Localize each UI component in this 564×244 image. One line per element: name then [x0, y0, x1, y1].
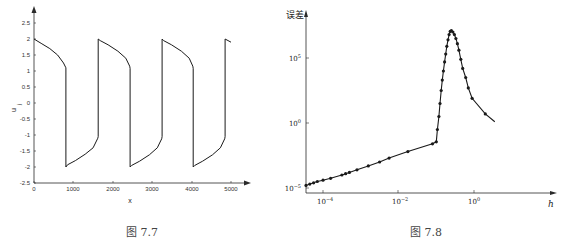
y-tick-label: 2.5 — [22, 20, 31, 26]
error-curve-markers — [304, 29, 487, 187]
x-axis-label: x — [128, 197, 132, 204]
y-axis-arrow-icon — [304, 10, 308, 17]
data-point-marker — [457, 49, 460, 52]
y-tick-label: 105 — [289, 53, 301, 63]
data-point-marker — [449, 30, 452, 33]
data-point-marker — [453, 33, 456, 36]
x-tick-label: 3000 — [145, 186, 159, 192]
data-point-marker — [304, 184, 307, 187]
data-point-marker — [438, 102, 441, 105]
data-point-marker — [459, 58, 462, 61]
right-chart-axes — [304, 10, 557, 195]
data-point-marker — [456, 42, 459, 45]
y-tick-label: 10−5 — [285, 183, 301, 193]
data-point-marker — [321, 179, 324, 182]
y-tick-label: -0.5 — [20, 116, 31, 122]
y-tick-label: -1 — [25, 132, 31, 138]
x-tick-label: 0 — [32, 186, 36, 192]
x-axis-label-h: h — [548, 199, 554, 209]
y-axis-label-error: 误差 — [286, 9, 304, 20]
y-tick-label: 2 — [27, 36, 31, 42]
figure-7-8-caption: 图 7.8 — [410, 226, 442, 239]
y-tick-label: -1.5 — [20, 148, 31, 154]
x-axis-arrow-icon — [244, 181, 251, 186]
x-tick-label: 4000 — [185, 186, 199, 192]
svg-text:j: j — [16, 104, 22, 106]
data-point-marker — [355, 168, 358, 171]
x-tick-label: 2000 — [106, 186, 120, 192]
x-tick-label: 100 — [468, 196, 480, 206]
data-point-marker — [451, 30, 454, 33]
right-chart-tick-labels: 10510010−510−410−2100 — [285, 53, 480, 206]
y-tick-label: 0 — [27, 100, 31, 106]
data-point-marker — [406, 150, 409, 153]
data-point-marker — [471, 97, 474, 100]
data-point-marker — [450, 29, 453, 32]
data-point-marker — [464, 76, 467, 79]
data-point-marker — [312, 181, 315, 184]
y-axis-label: u j — [10, 104, 22, 112]
data-point-marker — [461, 67, 464, 70]
data-point-marker — [388, 157, 391, 160]
data-point-marker — [435, 140, 438, 143]
data-point-marker — [367, 164, 370, 167]
data-point-marker — [329, 177, 332, 180]
y-tick-label: -2.5 — [20, 180, 31, 186]
x-tick-label: 10−2 — [392, 196, 408, 206]
x-tick-label: 5000 — [224, 186, 238, 192]
x-axis-arrow-icon — [550, 191, 557, 195]
data-point-marker — [344, 172, 347, 175]
x-tick-label: 1000 — [66, 186, 80, 192]
data-point-marker — [445, 45, 448, 48]
data-point-marker — [443, 60, 446, 63]
figure-7-7-chart: 2.521.510.50-0.5-1-1.5-2-2.5010002000300… — [0, 0, 282, 244]
data-point-marker — [442, 69, 445, 72]
y-tick-label: 100 — [289, 118, 301, 128]
data-point-marker — [436, 128, 439, 131]
data-point-marker — [431, 142, 434, 145]
y-tick-label: 0.5 — [22, 84, 31, 90]
data-point-marker — [441, 79, 444, 82]
data-point-marker — [484, 112, 487, 115]
data-point-marker — [340, 173, 343, 176]
data-point-marker — [308, 183, 311, 186]
x-tick-label: 10−4 — [317, 196, 333, 206]
left-chart-axes — [32, 6, 252, 186]
error-curve-line — [306, 31, 495, 186]
data-point-marker — [448, 33, 451, 36]
data-point-marker — [467, 86, 470, 89]
data-point-marker — [348, 171, 351, 174]
y-tick-label: 1.5 — [22, 52, 31, 58]
data-point-marker — [378, 160, 381, 163]
data-point-marker — [444, 53, 447, 56]
data-point-marker — [454, 37, 457, 40]
left-chart-tick-labels: 2.521.510.50-0.5-1-1.5-2-2.5010002000300… — [20, 20, 239, 192]
y-axis-arrow-icon — [32, 6, 37, 13]
data-point-marker — [446, 38, 449, 41]
figure-7-7-caption: 图 7.7 — [126, 226, 158, 239]
data-point-marker — [316, 180, 319, 183]
svg-text:u: u — [10, 108, 17, 112]
data-point-marker — [437, 115, 440, 118]
y-tick-label: -2 — [25, 164, 31, 170]
u-j-waveform-line — [34, 39, 231, 167]
data-point-marker — [440, 89, 443, 92]
y-tick-label: 1 — [27, 68, 31, 74]
